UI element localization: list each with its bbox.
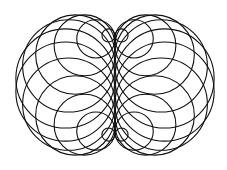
nephroid-circle-diagram [0,0,227,170]
generating-circle [115,76,194,155]
generating-circle [36,76,115,155]
generating-circle [115,15,194,94]
generating-circle [36,15,115,94]
